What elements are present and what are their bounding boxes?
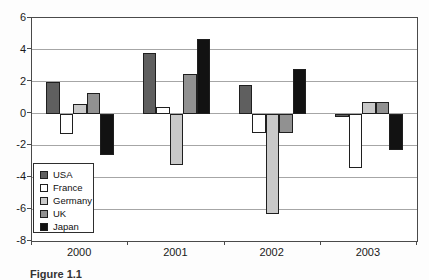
legend-item-france: France — [40, 182, 93, 194]
legend: USAFranceGermanyUKJapan — [33, 163, 94, 233]
bar-france-2001 — [156, 107, 170, 113]
bar-japan-2000 — [100, 114, 114, 155]
y-axis-label-2: 2 — [2, 76, 26, 87]
x-axis-label-2001: 2001 — [145, 246, 205, 258]
legend-item-germany: Germany — [40, 195, 93, 207]
y-axis-label--4: -4 — [2, 171, 26, 182]
bar-germany-2002 — [266, 114, 280, 214]
y-axis-label--6: -6 — [2, 203, 26, 214]
y-axis-label-6: 6 — [2, 12, 26, 23]
x-axis-tick — [320, 241, 321, 245]
y-axis-tick — [27, 80, 31, 81]
y-axis-label--2: -2 — [2, 139, 26, 150]
y-axis-tick — [27, 208, 31, 209]
legend-swatch-icon — [40, 210, 48, 218]
bar-uk-2003 — [376, 102, 390, 113]
gridline-2 — [32, 81, 417, 82]
y-axis-label-4: 4 — [2, 44, 26, 55]
legend-label: USA — [53, 170, 73, 180]
x-axis-tick — [416, 241, 417, 245]
x-axis-label-2003: 2003 — [338, 246, 398, 258]
bar-france-2003 — [349, 114, 363, 168]
figure-caption: Figure 1.1 — [30, 268, 82, 280]
y-axis-label-0: 0 — [2, 108, 26, 119]
legend-swatch-icon — [40, 223, 48, 231]
bar-france-2002 — [252, 114, 266, 133]
y-axis-tick — [27, 48, 31, 49]
x-axis-label-2000: 2000 — [49, 246, 109, 258]
bar-usa-2002 — [239, 85, 253, 114]
bar-japan-2002 — [293, 69, 307, 114]
bar-germany-2000 — [73, 104, 87, 114]
legend-swatch-icon — [40, 171, 48, 179]
legend-label: UK — [53, 209, 66, 219]
bar-usa-2003 — [335, 114, 349, 117]
bar-uk-2000 — [87, 93, 101, 114]
bar-japan-2003 — [389, 114, 403, 151]
x-axis-tick — [224, 241, 225, 245]
gridline-4 — [32, 49, 417, 50]
bar-usa-2000 — [46, 82, 60, 114]
x-axis-label-2002: 2002 — [242, 246, 302, 258]
x-axis-tick — [31, 241, 32, 245]
bar-uk-2002 — [279, 114, 293, 133]
bar-japan-2001 — [197, 39, 211, 114]
y-axis-tick — [27, 17, 31, 18]
bar-germany-2001 — [170, 114, 184, 165]
legend-swatch-icon — [40, 184, 48, 192]
y-axis-tick — [27, 112, 31, 113]
legend-item-uk: UK — [40, 208, 93, 220]
legend-label: Japan — [53, 222, 79, 232]
y-axis-tick — [27, 176, 31, 177]
y-axis-label--8: -8 — [2, 235, 26, 246]
bar-germany-2003 — [362, 102, 376, 113]
legend-label: France — [53, 183, 83, 193]
bar-uk-2001 — [183, 74, 197, 114]
legend-item-usa: USA — [40, 169, 93, 181]
x-axis-tick — [127, 241, 128, 245]
y-axis-tick — [27, 144, 31, 145]
legend-swatch-icon — [40, 197, 48, 205]
bar-usa-2001 — [143, 53, 157, 114]
legend-item-japan: Japan — [40, 221, 93, 233]
bar-france-2000 — [60, 114, 74, 135]
legend-label: Germany — [53, 196, 92, 206]
